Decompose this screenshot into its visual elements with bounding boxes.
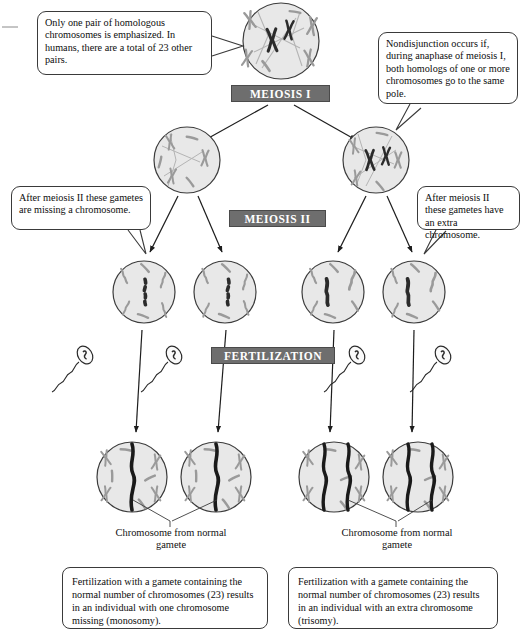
callout-extra-chromosome: After meiosis II these gametes have an e… [417, 186, 520, 230]
label-chromosome-normal-gamete-left: Chromosome from normal gamete [112, 527, 230, 552]
leader-lines [133, 500, 432, 527]
arrow-fertilization [136, 330, 414, 432]
cell-gamete-4 [383, 261, 445, 323]
caption-trisomy: Fertilization with a gamete containing t… [288, 567, 498, 629]
callout-nondisjunction: Nondisjunction occurs if, during anaphas… [378, 32, 518, 104]
cell-gamete-2 [194, 261, 256, 323]
callout-missing-chromosome: After meiosis II these gametes are missi… [11, 186, 151, 230]
cell-meiosis1-left [154, 127, 220, 193]
cell-zygote-3 [299, 442, 369, 512]
label-chromosome-normal-gamete-right: Chromosome from normal gamete [338, 527, 456, 552]
diagram-canvas: Only one pair of homologous chromosomes … [0, 0, 523, 634]
arrow-meiosis1 [205, 105, 356, 140]
stage-banner-meiosis-2: MEIOSIS II [229, 210, 326, 227]
callout-homologous-pair: Only one pair of homologous chromosomes … [37, 11, 212, 75]
cell-zygote-2 [181, 442, 251, 512]
cell-zygote-4 [383, 442, 453, 512]
cell-parent [242, 3, 319, 79]
caption-monosomy: Fertilization with a gamete containing t… [62, 567, 268, 629]
cell-gamete-3 [302, 261, 364, 323]
cell-gamete-1 [113, 261, 175, 323]
stage-banner-fertilization: FERTILIZATION [211, 347, 335, 364]
stage-banner-meiosis-1: MEIOSIS I [231, 85, 330, 102]
cell-zygote-1 [97, 442, 167, 512]
cell-meiosis1-right [343, 127, 409, 193]
